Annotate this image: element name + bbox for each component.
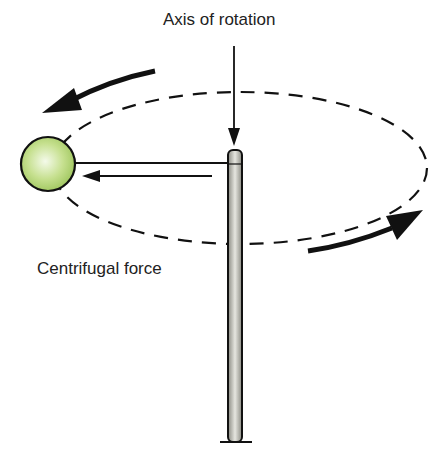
force-arrow <box>82 170 212 182</box>
rotation-arrow-bottom <box>308 210 423 251</box>
diagram-canvas <box>0 0 437 454</box>
rotation-pole <box>220 150 252 442</box>
rotation-arrow-top <box>42 71 155 113</box>
axis-arrow <box>228 46 240 146</box>
rotating-ball <box>21 137 75 191</box>
